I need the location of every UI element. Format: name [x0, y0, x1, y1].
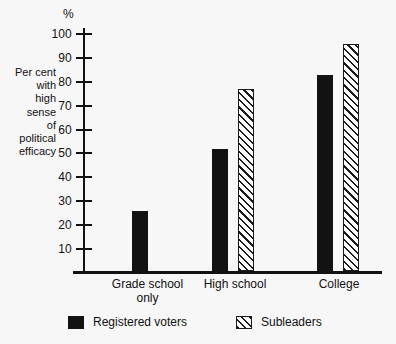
y-axis-tick — [76, 57, 92, 59]
chart-legend: Registered voters Subleaders — [0, 312, 396, 334]
y-axis-tick — [76, 105, 92, 107]
y-axis-tick-label: 40 — [40, 171, 72, 183]
legend-label-registered-voters: Registered voters — [93, 316, 187, 329]
bar-subleaders-high-school — [238, 89, 254, 271]
y-axis-tick-label: 10 — [40, 243, 72, 255]
x-axis-category-label-high-school: High school — [191, 277, 279, 291]
y-axis-tick-label: 30 — [40, 195, 72, 207]
y-axis-tick-label: 90 — [40, 52, 72, 64]
y-axis-tick-label: 70 — [40, 100, 72, 112]
y-axis-unit-symbol: % — [63, 8, 74, 20]
y-axis-tick — [76, 248, 92, 250]
y-axis-tick-label: 50 — [40, 147, 72, 159]
legend-swatch-hatch-icon — [236, 316, 252, 329]
x-axis-line — [73, 271, 382, 274]
y-axis-tick-label: 100 — [40, 28, 72, 40]
legend-swatch-solid-icon — [68, 316, 84, 329]
x-axis-category-label-grade-school: Grade school only — [100, 277, 195, 305]
bar-registered-voters-high-school — [212, 149, 228, 271]
y-axis-tick-label: 20 — [40, 219, 72, 231]
y-axis-tick — [76, 33, 92, 35]
x-axis-category-label-college: College — [295, 277, 383, 291]
y-axis-tick — [76, 224, 92, 226]
y-axis-tick — [76, 81, 92, 83]
legend-entry-registered-voters: Registered voters — [68, 316, 187, 329]
y-axis-tick — [76, 129, 92, 131]
y-axis-line — [83, 28, 85, 274]
bar-chart: % Per cent with high sense of political … — [0, 0, 396, 344]
legend-entry-subleaders: Subleaders — [236, 316, 322, 329]
y-axis-tick-label: 80 — [40, 76, 72, 88]
y-axis-tick-label: 60 — [40, 124, 72, 136]
bar-registered-voters-grade-school — [132, 211, 148, 271]
bar-registered-voters-college — [317, 75, 333, 271]
y-axis-tick — [76, 200, 92, 202]
y-axis-tick — [76, 152, 92, 154]
y-axis-tick — [76, 176, 92, 178]
legend-label-subleaders: Subleaders — [261, 316, 322, 329]
bar-subleaders-college — [343, 44, 359, 271]
